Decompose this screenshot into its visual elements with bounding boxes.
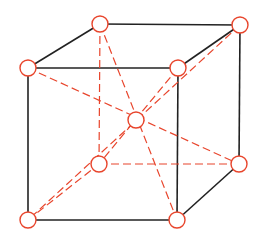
atom-front-top-left	[20, 60, 36, 76]
cube-edge	[100, 24, 240, 25]
bcc-unit-cell-diagram	[0, 0, 263, 242]
atom-front-top-right	[170, 60, 186, 76]
cube-edge	[177, 68, 178, 220]
dashed-line	[99, 24, 100, 164]
cube-edge	[178, 25, 240, 68]
atom-back-bottom-right	[231, 156, 247, 172]
cube-edge	[239, 25, 240, 164]
atom-back-top-left	[92, 16, 108, 32]
atom-body-center	[128, 112, 144, 128]
cube-edge	[28, 24, 100, 68]
cube-edge	[177, 164, 239, 220]
atom-back-top-right	[232, 17, 248, 33]
atom-back-bottom-left	[91, 156, 107, 172]
atom-front-bottom-right	[169, 212, 185, 228]
atom-front-bottom-left	[20, 212, 36, 228]
dashed-line	[28, 164, 99, 220]
